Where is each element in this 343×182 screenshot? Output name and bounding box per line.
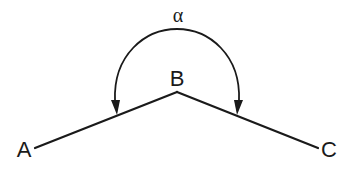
arrowhead-right-icon [234, 100, 243, 115]
point-label-c: C [321, 137, 337, 162]
point-label-a: A [17, 137, 32, 162]
angle-label: α [173, 4, 184, 26]
segment-ba [35, 92, 177, 148]
point-label-b: B [170, 66, 185, 91]
arrowhead-left-icon [111, 100, 120, 115]
diagram-canvas: α B A C [0, 0, 343, 182]
angle-diagram: α B A C [0, 0, 343, 182]
segment-bc [177, 92, 318, 148]
